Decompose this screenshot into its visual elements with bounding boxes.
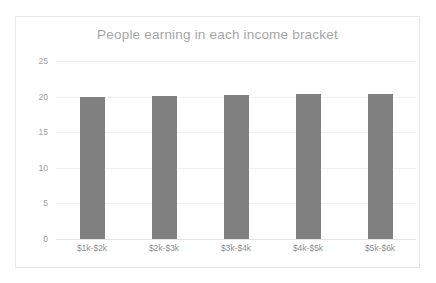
x-axis-tick-label: $3k-$4k	[200, 243, 272, 253]
x-axis-tick-label: $1k-$2k	[56, 243, 128, 253]
gridline	[56, 239, 416, 240]
y-axis-tick-label: 5	[18, 198, 48, 208]
chart-title: People earning in each income bracket	[16, 27, 419, 42]
bar	[224, 95, 249, 239]
gridline	[56, 61, 416, 62]
y-axis-tick-label: 25	[18, 56, 48, 66]
x-axis-tick-label: $2k-$3k	[128, 243, 200, 253]
y-axis: 0510152025	[16, 61, 56, 239]
bar	[368, 94, 393, 239]
bar	[80, 97, 105, 239]
bar-chart-figure: People earning in each income bracket 05…	[15, 16, 420, 268]
plot-area	[56, 61, 416, 239]
x-axis: $1k-$2k$2k-$3k$3k-$4k$4k-$5k$5k-$6k	[56, 243, 416, 263]
x-axis-tick-label: $4k-$5k	[272, 243, 344, 253]
bar	[152, 96, 177, 239]
y-axis-tick-label: 20	[18, 92, 48, 102]
x-axis-tick-label: $5k-$6k	[344, 243, 416, 253]
y-axis-tick-label: 15	[18, 127, 48, 137]
bar	[296, 94, 321, 239]
y-axis-tick-label: 10	[18, 163, 48, 173]
y-axis-tick-label: 0	[18, 234, 48, 244]
